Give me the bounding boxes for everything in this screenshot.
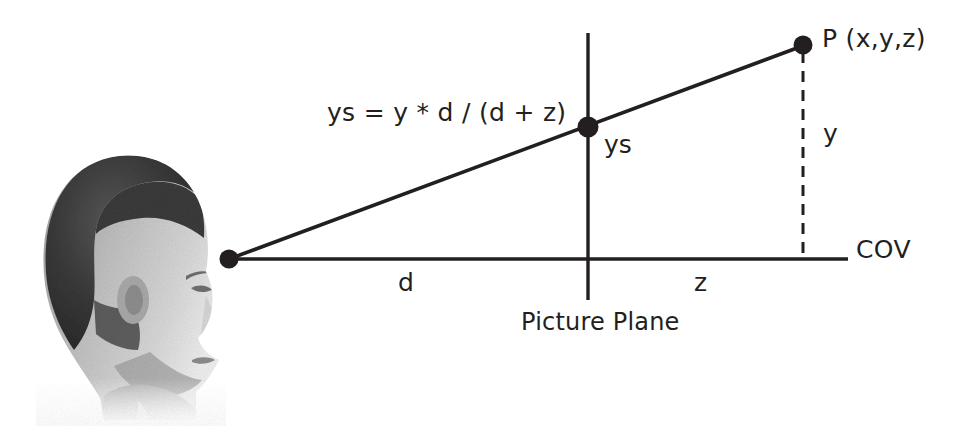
projection-formula-label: ys = y * d / (d + z): [327, 100, 566, 125]
picture-plane-label: Picture Plane: [521, 310, 680, 334]
height-y-label: y: [823, 121, 838, 146]
perspective-projection-diagram: ys = y * d / (d + z) P (x,y,z) ys y d z …: [0, 0, 964, 431]
point-p-label: P (x,y,z): [822, 26, 926, 51]
head-profile-photo: [36, 150, 226, 426]
projected-point-label: ys: [604, 132, 632, 157]
point-p-dot: [794, 36, 813, 55]
distance-d-label: d: [398, 270, 414, 295]
center-of-view-label: COV: [856, 237, 911, 262]
depth-z-label: z: [694, 270, 707, 295]
eye-point-dot: [220, 250, 239, 269]
projector-ray: [229, 45, 805, 259]
diagram-canvas: [0, 0, 964, 431]
projected-point-dot: [578, 117, 599, 138]
